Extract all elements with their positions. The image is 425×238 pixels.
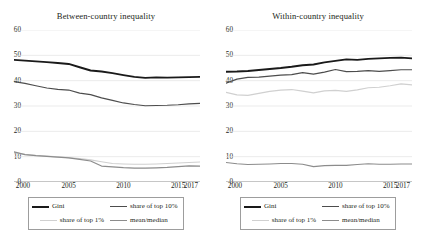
series-line-gini — [226, 58, 412, 72]
line-chart-within-country — [226, 30, 412, 182]
x-tick-label: 2005 — [274, 182, 288, 190]
panel-title-between-country: Between-country inequality — [0, 11, 212, 21]
legend-label: mean/median — [130, 217, 168, 224]
x-axis-labels-right: 20002005201020152017 — [226, 182, 412, 194]
legend-swatch-line-icon — [252, 220, 269, 221]
legend-swatch-line-icon — [32, 206, 49, 208]
legend-item: share of top 10% — [318, 200, 392, 214]
series-line-share-of-top-10 — [14, 82, 200, 106]
inequality-figure: Between-country inequality 0102030405060… — [0, 0, 425, 238]
panel-between-country: Between-country inequality 0102030405060… — [0, 0, 212, 238]
plot-area-within-country — [226, 30, 412, 182]
legend-swatch-line-icon — [110, 206, 127, 207]
x-tick-label: 2010 — [116, 182, 130, 190]
series-line-share-of-top-1 — [226, 84, 412, 95]
legend-label: Gini — [52, 203, 64, 210]
legend-label: share of top 1% — [272, 217, 316, 224]
legend-label: Gini — [264, 203, 276, 210]
legend-label: mean/median — [342, 217, 380, 224]
legend-within-country: Ginishare of top 10%share of top 1%mean/… — [240, 197, 396, 230]
legend-swatch-line-icon — [322, 220, 339, 221]
x-axis-labels-left: 20002005201020152017 — [14, 182, 200, 194]
legend-swatch-line-icon — [110, 220, 127, 221]
legend-swatch-line-icon — [244, 206, 261, 208]
legend-item: mean/median — [318, 214, 392, 228]
legend-item: share of top 10% — [106, 200, 180, 214]
legend-item: share of top 1% — [32, 214, 106, 228]
x-tick-label: 2005 — [62, 182, 76, 190]
legend-label: share of top 10% — [130, 203, 178, 210]
legend-label: share of top 1% — [60, 217, 104, 224]
plot-area-between-country — [14, 30, 200, 182]
legend-item: Gini — [244, 200, 318, 214]
legend-label: share of top 10% — [342, 203, 390, 210]
series-line-share-of-top-1 — [14, 153, 200, 165]
legend-item: mean/median — [106, 214, 180, 228]
series-line-mean-median — [14, 152, 200, 168]
panel-within-country: Within-country inequality 0102030405060 … — [212, 0, 424, 238]
legend-between-country: Ginishare of top 10%share of top 1%mean/… — [28, 197, 184, 230]
x-tick-label: 2017 — [396, 182, 410, 190]
x-tick-label: 2000 — [228, 182, 242, 190]
legend-item: Gini — [32, 200, 106, 214]
legend-swatch-line-icon — [322, 206, 339, 207]
x-tick-label: 2000 — [16, 182, 30, 190]
legend-item: share of top 1% — [244, 214, 318, 228]
series-line-gini — [14, 60, 200, 78]
series-line-share-of-top-10 — [226, 70, 412, 84]
legend-swatch-line-icon — [40, 220, 57, 221]
series-line-mean-median — [226, 162, 412, 166]
line-chart-between-country — [14, 30, 200, 182]
panel-title-within-country: Within-country inequality — [212, 11, 424, 21]
x-tick-label: 2010 — [328, 182, 342, 190]
x-tick-label: 2017 — [184, 182, 198, 190]
